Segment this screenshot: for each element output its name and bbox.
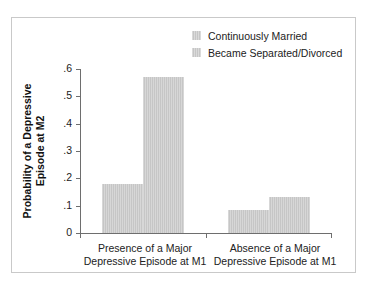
y-axis-tick-label: .3 [48, 144, 72, 157]
y-axis-tick [76, 151, 80, 152]
plot-area: .6.5.4.3.2.10 [80, 69, 332, 233]
legend-item: Became Separated/Divorced [192, 44, 362, 61]
legend-item-label: Continuously Married [208, 30, 307, 42]
legend-item-label: Became Separated/Divorced [208, 47, 342, 59]
bar [102, 184, 143, 233]
x-axis-tick [331, 234, 332, 238]
chart-legend: Continuously Married Became Separated/Di… [192, 27, 362, 61]
y-axis-tick-label: .1 [48, 199, 72, 212]
y-axis-tick [76, 124, 80, 125]
x-axis-group-label-line-2: Depressive Episode at M1 [210, 255, 340, 268]
legend-swatch-icon [192, 31, 201, 40]
x-axis-group-label-line-2: Depressive Episode at M1 [80, 255, 210, 268]
y-axis-tick-label: 0 [48, 226, 72, 239]
legend-item: Continuously Married [192, 27, 362, 44]
x-axis-tick [80, 234, 81, 238]
y-axis-line [80, 69, 81, 234]
bar [269, 197, 310, 233]
y-axis-tick [76, 69, 80, 70]
x-axis-tick [206, 234, 207, 238]
x-axis-group-label: Presence of a Major Depressive Episode a… [80, 242, 210, 268]
y-axis-tick-label: .6 [48, 62, 72, 75]
chart-figure: Continuously Married Became Separated/Di… [0, 0, 368, 284]
y-axis-tick-label: .5 [48, 89, 72, 102]
y-axis-title-line-1: Probability of a Depressive [21, 84, 33, 219]
bar [143, 77, 184, 233]
y-axis-title: Probability of a Depressive Episode at M… [19, 69, 49, 233]
y-axis-tick [76, 206, 80, 207]
y-axis-title-line-2: Episode at M2 [34, 116, 46, 187]
x-axis-group-label-line-1: Presence of a Major [80, 242, 210, 255]
y-axis-tick-label: .4 [48, 117, 72, 130]
y-axis-tick-label: .2 [48, 171, 72, 184]
y-axis-tick [76, 96, 80, 97]
bar [228, 210, 269, 233]
x-axis-group-label: Absence of a Major Depressive Episode at… [210, 242, 340, 268]
legend-swatch-icon [192, 48, 201, 57]
y-axis-tick [76, 178, 80, 179]
x-axis-group-label-line-1: Absence of a Major [210, 242, 340, 255]
